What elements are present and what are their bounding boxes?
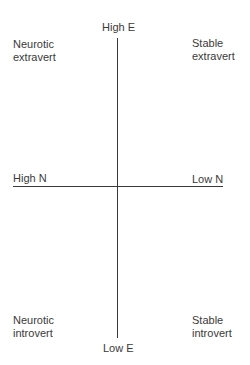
quadrant-stable-extravert: Stable extravert: [192, 37, 235, 63]
vertical-axis-e: [117, 38, 118, 338]
quadrant-neurotic-introvert: Neurotic introvert: [13, 314, 54, 340]
label-high-n: High N: [13, 172, 47, 185]
quadrant-neurotic-extravert: Neurotic extravert: [13, 38, 56, 64]
label-high-e: High E: [102, 21, 135, 34]
horizontal-axis-n: [13, 186, 223, 187]
label-low-n: Low N: [192, 173, 223, 186]
label-low-e: Low E: [103, 342, 134, 355]
quadrant-stable-introvert: Stable introvert: [192, 314, 232, 340]
